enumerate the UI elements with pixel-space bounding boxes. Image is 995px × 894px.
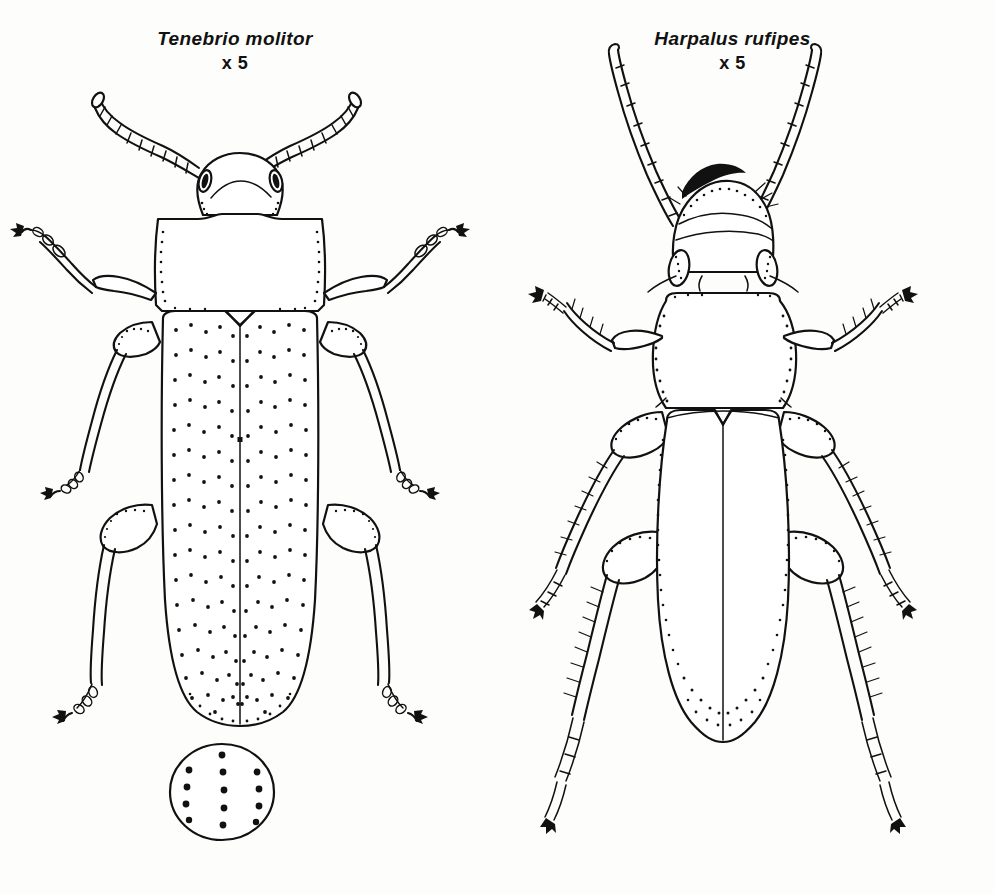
antenna-left-tenebrio xyxy=(90,91,199,178)
tarsus-midleg-right-harpalus xyxy=(881,570,910,607)
hindleg-right-harpalus xyxy=(780,532,906,834)
elytra-harpalus xyxy=(657,410,790,742)
tarsus-midleg-right-tenebrio xyxy=(395,470,420,495)
hindleg-left-tenebrio xyxy=(52,505,157,724)
foreleg-right-harpalus xyxy=(784,286,918,351)
tarsus-foreleg-right-harpalus xyxy=(880,293,903,313)
femur-hindleg-left-tenebrio xyxy=(101,505,157,553)
eye-right-harpalus xyxy=(754,249,780,288)
femur-hindleg-right-tenebrio xyxy=(323,505,379,553)
palps-harpalus xyxy=(648,276,798,292)
tarsus-foreleg-left-harpalus xyxy=(543,293,566,313)
midleg-left-tenebrio xyxy=(40,322,160,500)
head-harpalus xyxy=(666,164,780,291)
femur-midleg-right-harpalus xyxy=(778,412,835,458)
foreleg-left-tenebrio xyxy=(10,223,156,300)
midleg-right-harpalus xyxy=(778,412,917,620)
inset-puncture-detail-tenebrio xyxy=(170,744,274,840)
foreleg-right-tenebrio xyxy=(324,223,470,300)
tarsus-midleg-left-tenebrio xyxy=(60,470,85,495)
midleg-left-harpalus xyxy=(529,412,668,620)
elytra-tenebrio xyxy=(162,311,319,726)
tarsus-hindleg-left-tenebrio xyxy=(72,684,99,715)
pronotum-harpalus xyxy=(653,293,796,408)
illustration-plate: Tenebrio molitor x 5 xyxy=(0,0,995,894)
drawing-tenebrio xyxy=(0,0,470,894)
figure-harpalus-rufipes: Harpalus rufipes x 5 xyxy=(470,0,995,894)
femur-midleg-right-tenebrio xyxy=(320,322,366,357)
femur-foreleg-left-tenebrio xyxy=(93,276,156,300)
foreleg-left-harpalus xyxy=(528,286,662,351)
drawing-harpalus xyxy=(470,0,995,894)
midleg-right-tenebrio xyxy=(320,322,440,500)
head-tenebrio xyxy=(197,153,285,218)
femur-foreleg-right-tenebrio xyxy=(324,276,387,300)
tarsus-hindleg-right-harpalus xyxy=(862,718,901,820)
tarsus-midleg-left-harpalus xyxy=(536,570,565,607)
tarsus-hindleg-left-harpalus xyxy=(545,718,584,820)
tarsus-hindleg-right-tenebrio xyxy=(381,684,408,715)
hindleg-left-harpalus xyxy=(540,532,666,834)
femur-midleg-left-tenebrio xyxy=(114,322,160,357)
femur-midleg-left-harpalus xyxy=(611,412,668,458)
hindleg-right-tenebrio xyxy=(323,505,428,724)
eye-left-harpalus xyxy=(666,249,692,288)
figure-tenebrio-molitor: Tenebrio molitor x 5 xyxy=(0,0,470,894)
pronotum-tenebrio xyxy=(155,214,325,311)
